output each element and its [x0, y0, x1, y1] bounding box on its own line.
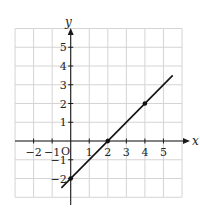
y-tick-label: 2 — [60, 98, 67, 111]
y-tick-label: −2 — [50, 173, 66, 186]
grid — [15, 29, 182, 198]
x-tick-label: 3 — [123, 146, 130, 159]
axes: x y O — [15, 15, 199, 205]
y-tick-label: 3 — [60, 79, 67, 92]
x-axis-arrow-icon — [183, 138, 190, 144]
data-point — [106, 139, 111, 144]
x-tick-label: 4 — [141, 146, 148, 159]
x-tick-label: 5 — [160, 146, 167, 159]
y-axis-arrow-icon — [68, 28, 74, 35]
y-tick-label: 1 — [60, 116, 67, 129]
coordinate-plane: x y O −2−11234554321−1−2 — [0, 0, 200, 212]
x-axis-label: x — [192, 134, 199, 148]
series-layer — [61, 75, 172, 188]
data-point — [143, 101, 148, 106]
x-tick-label: 2 — [104, 146, 111, 159]
y-axis-label: y — [64, 15, 72, 29]
y-tick-label: 4 — [60, 60, 67, 73]
data-line — [61, 75, 172, 188]
x-tick-label: −2 — [25, 146, 41, 159]
tick-labels: −2−11234554321−1−2 — [25, 41, 166, 185]
data-point — [68, 176, 73, 181]
y-tick-label: −1 — [50, 154, 66, 167]
y-tick-label: 5 — [60, 41, 67, 54]
